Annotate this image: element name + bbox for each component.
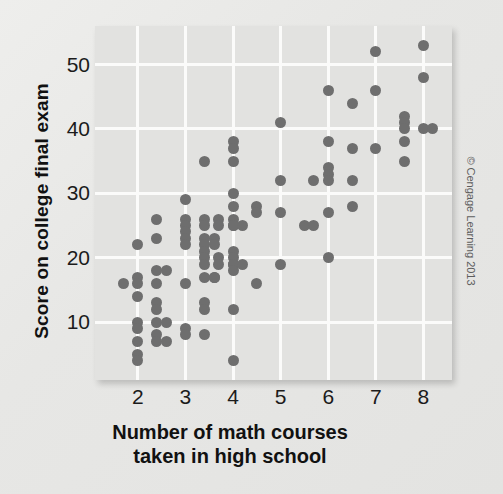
data-point — [399, 156, 410, 167]
y-tick-label: 40 — [50, 118, 90, 139]
data-point — [228, 304, 239, 315]
data-point — [132, 323, 143, 334]
x-axis-title-line1: Number of math courses — [0, 421, 460, 445]
data-point — [347, 98, 358, 109]
gridline-y — [95, 321, 452, 324]
data-point — [275, 117, 286, 128]
data-point — [228, 355, 239, 366]
data-point — [180, 239, 191, 250]
x-tick-label: 7 — [356, 386, 396, 407]
data-point — [347, 175, 358, 186]
data-point — [213, 259, 224, 270]
data-point — [132, 291, 143, 302]
data-point — [323, 85, 334, 96]
plot-panel — [95, 26, 452, 380]
x-tick-label: 6 — [308, 386, 348, 407]
data-point — [370, 46, 381, 57]
data-point — [275, 207, 286, 218]
data-point — [180, 278, 191, 289]
data-point — [199, 259, 210, 270]
data-point — [228, 201, 239, 212]
x-axis-title: Number of math courses taken in high sch… — [0, 421, 460, 468]
data-point — [199, 220, 210, 231]
gridline-y — [95, 63, 452, 66]
data-point — [199, 304, 210, 315]
data-point — [151, 233, 162, 244]
data-point — [132, 239, 143, 250]
data-point — [251, 207, 262, 218]
data-point — [132, 355, 143, 366]
data-point — [161, 317, 172, 328]
data-point — [399, 123, 410, 134]
x-tick-label: 4 — [213, 386, 253, 407]
y-tick-label: 50 — [50, 54, 90, 75]
data-point — [323, 207, 334, 218]
data-point — [251, 278, 262, 289]
data-point — [370, 143, 381, 154]
x-axis-title-line2: taken in high school — [0, 445, 460, 469]
data-point — [118, 278, 129, 289]
data-point — [237, 220, 248, 231]
data-point — [370, 85, 381, 96]
gridline-x — [327, 26, 330, 380]
data-point — [180, 329, 191, 340]
data-point — [347, 201, 358, 212]
y-tick-label: 10 — [50, 311, 90, 332]
data-point — [199, 329, 210, 340]
data-point — [323, 252, 334, 263]
data-point — [237, 259, 248, 270]
data-point — [323, 175, 334, 186]
y-tick-label: 20 — [50, 247, 90, 268]
gridline-x — [279, 26, 282, 380]
data-point — [151, 278, 162, 289]
data-point — [180, 194, 191, 205]
data-point — [418, 40, 429, 51]
data-point — [347, 143, 358, 154]
data-point — [209, 272, 220, 283]
y-tick-label: 30 — [50, 182, 90, 203]
x-tick-label: 8 — [403, 386, 443, 407]
data-point — [275, 175, 286, 186]
y-axis-title: Score on college final exam — [31, 51, 53, 371]
data-point — [151, 214, 162, 225]
figure: 1020304050 2345678 Score on college fina… — [0, 0, 503, 494]
data-point — [209, 239, 220, 250]
x-axis-ticklabels: 2345678 — [0, 386, 503, 416]
data-point — [132, 278, 143, 289]
gridline-y — [95, 192, 452, 195]
data-point — [161, 265, 172, 276]
data-point — [427, 123, 438, 134]
x-tick-label: 2 — [118, 386, 158, 407]
data-point — [161, 336, 172, 347]
data-point — [213, 220, 224, 231]
gridline-x — [374, 26, 377, 380]
x-tick-label: 3 — [165, 386, 205, 407]
data-point — [308, 175, 319, 186]
data-point — [399, 136, 410, 147]
data-point — [323, 136, 334, 147]
data-point — [228, 188, 239, 199]
data-point — [308, 220, 319, 231]
copyright-credit: © Cengage Learning 2013 — [465, 131, 477, 311]
data-point — [418, 72, 429, 83]
x-tick-label: 5 — [261, 386, 301, 407]
data-point — [132, 336, 143, 347]
data-point — [228, 156, 239, 167]
data-point — [151, 304, 162, 315]
data-point — [275, 259, 286, 270]
data-point — [228, 143, 239, 154]
gridline-y — [95, 256, 452, 259]
data-point — [199, 156, 210, 167]
